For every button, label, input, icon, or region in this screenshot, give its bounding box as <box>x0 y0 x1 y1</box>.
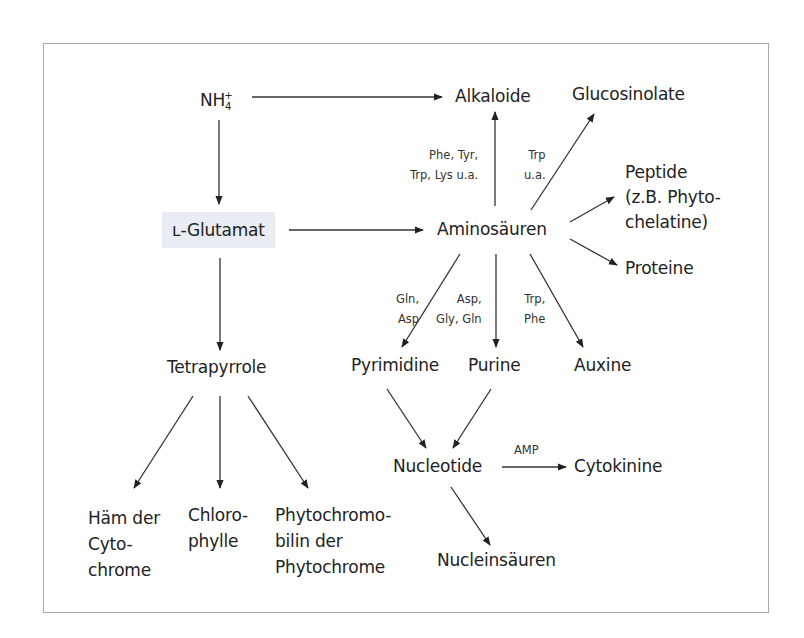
node-chlorophylle: Chloro- phylle <box>188 502 248 554</box>
node-alkaloide: Alkaloide <box>455 86 531 106</box>
arrow-tetrapyrrole-phytochromobilin <box>248 396 308 488</box>
label-to-alkaloide: Phe, Tyr, Trp, Lys u.a. <box>410 145 478 185</box>
node-aminosaeuren: Aminosäuren <box>437 219 547 239</box>
node-pyrimidine: Pyrimidine <box>351 355 439 375</box>
nh4-base: NH <box>200 90 225 110</box>
node-phytochromobilin: Phytochromo- bilin der Phytochrome <box>275 502 391 580</box>
node-peptide: Peptide (z.B. Phyto- chelatine) <box>625 160 721 235</box>
node-tetrapyrrole: Tetrapyrrole <box>167 357 266 377</box>
label-to-auxine: Trp, Phe <box>524 289 545 329</box>
label-to-glucosinolate: Trp u.a. <box>524 145 546 185</box>
arrow-purine-nucleotide <box>453 389 491 448</box>
label-to-cytokinine: AMP <box>514 443 539 457</box>
arrow-pyrimidine-nucleotide <box>387 389 426 448</box>
label-to-purine: Asp, Gly, Gln <box>436 289 482 329</box>
node-glucosinolate: Glucosinolate <box>572 84 685 104</box>
node-haem-der-cytochrome: Häm der Cyto- chrome <box>88 505 160 583</box>
nh4-superscript: + <box>224 90 232 101</box>
node-cytokinine: Cytokinine <box>574 456 662 476</box>
arrow-aminosaeuren-peptide <box>570 197 614 222</box>
node-l-glutamat: ʟ-Glutamat <box>162 212 275 248</box>
arrow-nucleotide-nucleinsaeuren <box>451 487 490 545</box>
node-proteine: Proteine <box>625 258 693 278</box>
label-to-pyrimidine: Gln, Asp <box>396 289 419 329</box>
node-auxine: Auxine <box>574 355 631 375</box>
node-nucleotide: Nucleotide <box>393 456 482 476</box>
nh4-subscript: 4 <box>225 101 231 112</box>
node-purine: Purine <box>468 355 520 375</box>
node-nucleinsaeuren: Nucleinsäuren <box>437 550 556 570</box>
arrow-tetrapyrrole-haem <box>134 396 193 488</box>
arrow-aminosaeuren-proteine <box>570 239 617 265</box>
node-nh4: NH4+ <box>200 86 232 117</box>
